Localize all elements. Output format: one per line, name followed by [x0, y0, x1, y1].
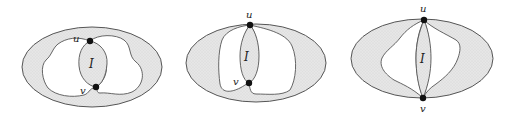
vertex-v-label: v — [420, 103, 426, 114]
region-I-label: I — [243, 50, 249, 64]
panel-2: u v I — [186, 9, 326, 102]
vertex-u-label: u — [420, 3, 426, 14]
region-I-label: I — [419, 52, 425, 66]
panel-3: u v I — [351, 3, 493, 114]
vertex-u-node — [421, 17, 427, 23]
vertex-v-node — [93, 84, 99, 90]
vertex-v-node — [420, 95, 426, 101]
vertex-u-node — [87, 38, 93, 44]
vertex-v-node — [246, 80, 252, 86]
vertex-v-label: v — [80, 85, 86, 96]
panel-1: u v I — [22, 27, 162, 107]
vertex-v-label: v — [233, 76, 239, 87]
vertex-u-node — [247, 22, 253, 28]
vertex-u-label: u — [246, 9, 252, 20]
vertex-u-label: u — [73, 33, 79, 44]
diagram-figure: u v I u v I u v I — [0, 0, 516, 116]
region-I-label: I — [88, 57, 94, 71]
